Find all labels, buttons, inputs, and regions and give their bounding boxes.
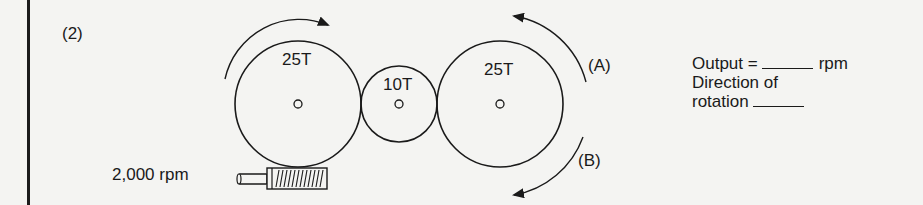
input-speed-label: 2,000 rpm <box>112 165 189 185</box>
idler-gear-teeth-label: 10T <box>383 75 412 95</box>
input-gear-teeth-label: 25T <box>282 50 311 70</box>
worm-gear-icon <box>237 168 327 189</box>
output-gear-teeth-label: 25T <box>484 60 513 80</box>
direction-a-arrow-icon <box>514 16 586 82</box>
direction-b-arrow-icon <box>514 137 583 195</box>
output-prefix: Output = <box>692 54 758 73</box>
answer-block: Output =rpm Direction of rotation <box>692 54 848 111</box>
direction-blank[interactable] <box>753 92 804 107</box>
input-rotation-arrow-icon <box>225 19 328 79</box>
direction-b-label: (B) <box>578 151 601 171</box>
output-unit: rpm <box>819 54 848 73</box>
direction-a-label: (A) <box>588 56 611 76</box>
direction-line-1: Direction of <box>692 73 848 92</box>
direction-line-2: rotation <box>692 92 749 111</box>
output-rpm-blank[interactable] <box>762 54 813 69</box>
